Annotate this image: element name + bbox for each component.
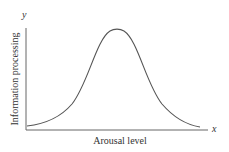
inverted-u-curve (27, 29, 200, 127)
x-axis-label: Arousal level (93, 135, 147, 146)
x-axis-symbol: x (211, 123, 217, 134)
arousal-diagram: y x Arousal level Information processing (0, 0, 229, 152)
y-axis-symbol: y (21, 9, 27, 20)
y-axis-label: Information processing (9, 32, 20, 125)
